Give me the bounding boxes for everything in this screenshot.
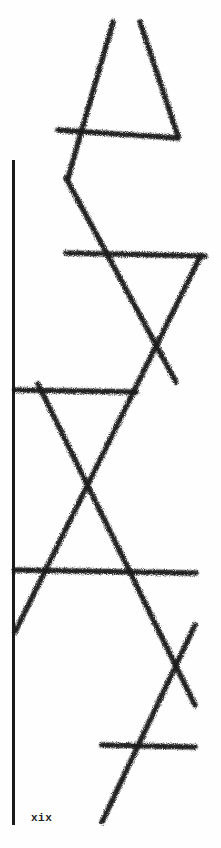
crayon-stroke [102, 625, 195, 822]
page-number: xix [31, 812, 52, 824]
crayon-strokes [15, 22, 205, 822]
triangle-drawing [0, 0, 221, 848]
crayon-stroke [66, 178, 176, 382]
crayon-stroke [140, 22, 178, 136]
document-page: xix [0, 0, 221, 848]
crayon-stroke [68, 22, 113, 178]
